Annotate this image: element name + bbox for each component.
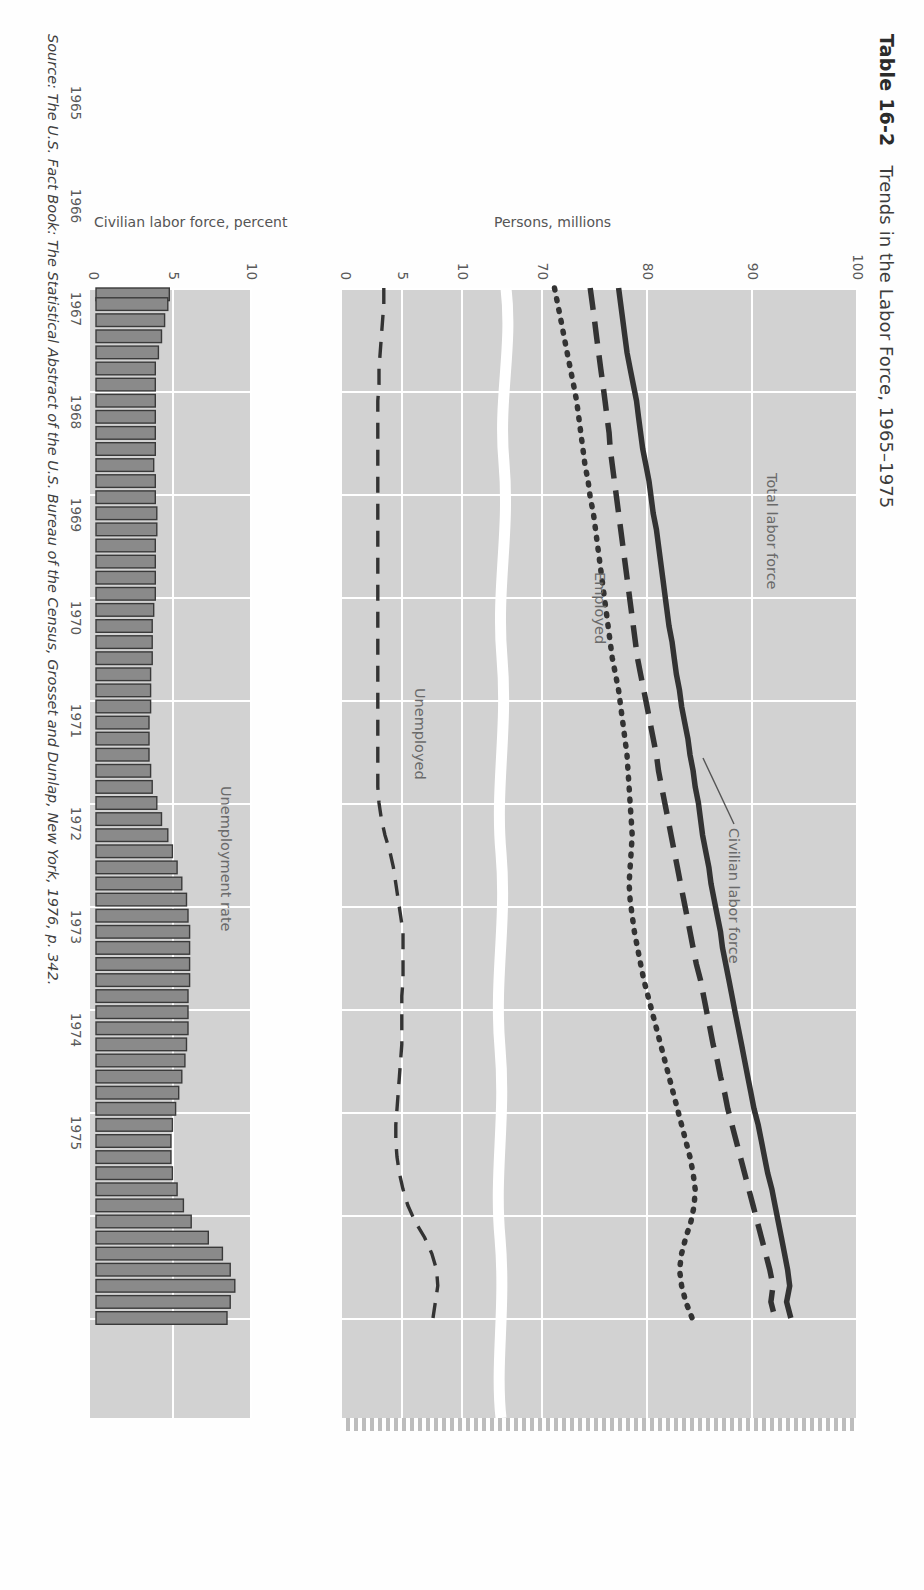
bar	[96, 1119, 172, 1132]
ytick-70: 70	[535, 240, 551, 280]
bar	[96, 523, 157, 536]
xtick-1971: 1971	[68, 698, 84, 744]
bar	[96, 668, 151, 681]
bar	[96, 588, 155, 601]
source-note: Source: The U.S. Fact Book: The Statisti…	[42, 34, 62, 1134]
bar	[96, 1247, 222, 1260]
bar	[96, 926, 190, 939]
bar-ytick-0: 0	[86, 240, 102, 280]
ytick-0: 0	[338, 240, 354, 280]
y-axis-label-persons-millions: Persons, millions	[494, 214, 611, 230]
bar	[96, 1086, 179, 1099]
bar	[96, 1006, 188, 1019]
bar	[96, 1199, 183, 1212]
bar	[96, 974, 190, 987]
bar	[96, 813, 162, 826]
xtick-1967: 1967	[68, 286, 84, 332]
ytick-5: 5	[395, 240, 411, 280]
bar	[96, 1215, 191, 1228]
bar	[96, 765, 151, 778]
series-label-unemployment-rate: Unemployment rate	[218, 786, 234, 932]
bar	[96, 1070, 182, 1083]
bar	[96, 411, 155, 424]
bar	[96, 314, 165, 327]
bar	[96, 1167, 172, 1180]
leader-line-civilian	[342, 288, 858, 1418]
bar	[96, 829, 168, 842]
xtick-1969: 1969	[68, 492, 84, 538]
bar	[96, 1151, 171, 1164]
bar	[96, 346, 158, 359]
bar	[96, 781, 152, 794]
bar	[96, 571, 155, 584]
bar	[96, 378, 155, 391]
bar	[96, 298, 168, 311]
bar	[96, 716, 149, 729]
figure-page: Table 16-2 Trends in the Labor Force, 19…	[0, 0, 924, 1590]
bar	[96, 684, 151, 697]
bar	[96, 893, 187, 906]
bar	[96, 475, 155, 488]
bar	[96, 652, 152, 665]
bar	[96, 507, 157, 520]
bar	[96, 797, 157, 810]
ytick-90: 90	[745, 240, 761, 280]
xtick-1975: 1975	[68, 1110, 84, 1156]
bar	[96, 877, 182, 890]
bar	[96, 1022, 188, 1035]
bar	[96, 459, 154, 472]
bar-chart-plot-area: Unemployment rate	[90, 288, 252, 1418]
bar	[96, 942, 190, 955]
bar	[96, 1263, 230, 1276]
bar	[96, 1312, 227, 1325]
bar	[96, 700, 151, 713]
bar	[96, 636, 152, 649]
bar	[96, 1296, 230, 1309]
bar	[96, 909, 188, 922]
bar	[96, 394, 155, 407]
bar	[96, 1103, 176, 1116]
bar	[96, 443, 155, 456]
bar	[96, 491, 155, 504]
bar	[96, 362, 155, 375]
ytick-80: 80	[640, 240, 656, 280]
bar	[96, 1231, 208, 1244]
ytick-10: 10	[455, 240, 471, 280]
bar-ytick-5: 5	[166, 240, 182, 280]
y-axis-label-civilian-labor-force-percent: Civilian labor force, percent	[94, 214, 294, 230]
bar	[96, 861, 177, 874]
ytick-100: 100	[850, 240, 866, 280]
bar	[96, 620, 152, 633]
bar-ytick-10: 10	[244, 240, 260, 280]
xtick-1973: 1973	[68, 904, 84, 950]
xtick-1970: 1970	[68, 595, 84, 641]
xtick-1974: 1974	[68, 1007, 84, 1053]
bar	[96, 732, 149, 745]
bar	[96, 330, 162, 343]
bar	[96, 748, 149, 761]
bar	[96, 539, 155, 552]
page-title: Trends in the Labor Force, 1965–1975	[876, 166, 897, 509]
bar	[96, 1280, 235, 1293]
xtick-1972: 1972	[68, 801, 84, 847]
bar	[96, 604, 154, 617]
line-chart-plot-area: Total labor force Employed Unemployed Ci…	[342, 288, 858, 1418]
bar	[96, 845, 172, 858]
serrated-axis-edge-top-chart	[342, 1418, 858, 1431]
bar	[96, 555, 155, 568]
xtick-1965: 1965	[68, 80, 84, 126]
table-number: Table 16-2	[876, 34, 898, 147]
bar	[96, 427, 155, 440]
bar	[96, 1038, 187, 1051]
xtick-1968: 1968	[68, 389, 84, 435]
bar	[96, 958, 190, 971]
figure-caption: Table 16-2 Trends in the Labor Force, 19…	[876, 34, 898, 508]
bar	[96, 990, 188, 1003]
bar	[96, 1135, 171, 1148]
xtick-1966: 1966	[68, 183, 84, 229]
bar	[96, 1183, 177, 1196]
bar	[96, 1054, 185, 1067]
